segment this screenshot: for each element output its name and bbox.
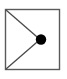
- rectangle-border: [6, 10, 60, 70]
- diagram-canvas: [0, 0, 67, 79]
- cone-projection-icon: [0, 0, 67, 79]
- vertex-dot: [36, 34, 46, 44]
